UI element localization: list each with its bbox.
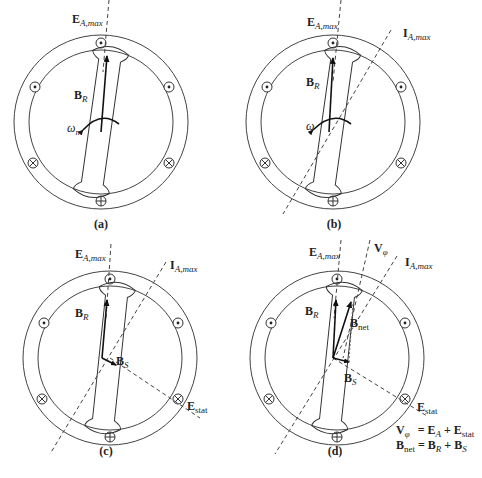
- stator-ring: [250, 271, 424, 445]
- br-vector: [101, 56, 107, 132]
- svg-text:ωm: ωm: [67, 121, 82, 137]
- estat-axis: [333, 358, 427, 416]
- svg-text:Estat: Estat: [187, 399, 208, 415]
- synchronous-generator-figure: EA,max BR ωm (a) EA,max IA,max BR ω (b) …: [0, 0, 482, 478]
- caption-d: (d): [328, 444, 343, 458]
- svg-text:BR: BR: [305, 304, 319, 320]
- equations: Vφ= EA + Estat Bnet = BR + BS: [396, 423, 475, 454]
- svg-text:EA,max: EA,max: [307, 15, 338, 31]
- equation-vphi: Vφ= EA + Estat: [396, 423, 475, 439]
- svg-text:Vφ: Vφ: [374, 241, 388, 257]
- caption-c: (c): [99, 444, 112, 458]
- svg-text:ω: ω: [306, 119, 314, 133]
- caption-b: (b): [327, 217, 342, 231]
- svg-text:EA,max: EA,max: [75, 247, 106, 263]
- svg-text:Bnet: Bnet: [350, 316, 370, 332]
- panel-b: [246, 0, 420, 214]
- panel-a: [14, 0, 188, 209]
- svg-text:IA,max: IA,max: [170, 258, 197, 274]
- svg-text:BS: BS: [116, 354, 129, 370]
- diagram-canvas: EA,max BR ωm (a) EA,max IA,max BR ω (b) …: [0, 0, 482, 478]
- svg-text:IA,max: IA,max: [405, 255, 432, 271]
- svg-text:BR: BR: [75, 306, 89, 322]
- svg-text:Estat: Estat: [417, 400, 438, 416]
- panel-d: [250, 240, 427, 454]
- svg-text:BS: BS: [344, 371, 357, 387]
- svg-text:EA,max: EA,max: [309, 245, 340, 261]
- panel-c: [23, 244, 200, 454]
- svg-text:IA,max: IA,max: [403, 26, 430, 42]
- svg-text:EA,max: EA,max: [72, 12, 103, 28]
- svg-text:BR: BR: [306, 75, 320, 91]
- vphi-axis: [343, 240, 370, 358]
- caption-a: (a): [94, 217, 108, 231]
- rotation-arrow-icon: [313, 118, 351, 130]
- equation-bnet: Bnet = BR + BS: [396, 438, 467, 454]
- svg-text:BR: BR: [74, 88, 88, 104]
- ia-max-axis: [50, 262, 166, 454]
